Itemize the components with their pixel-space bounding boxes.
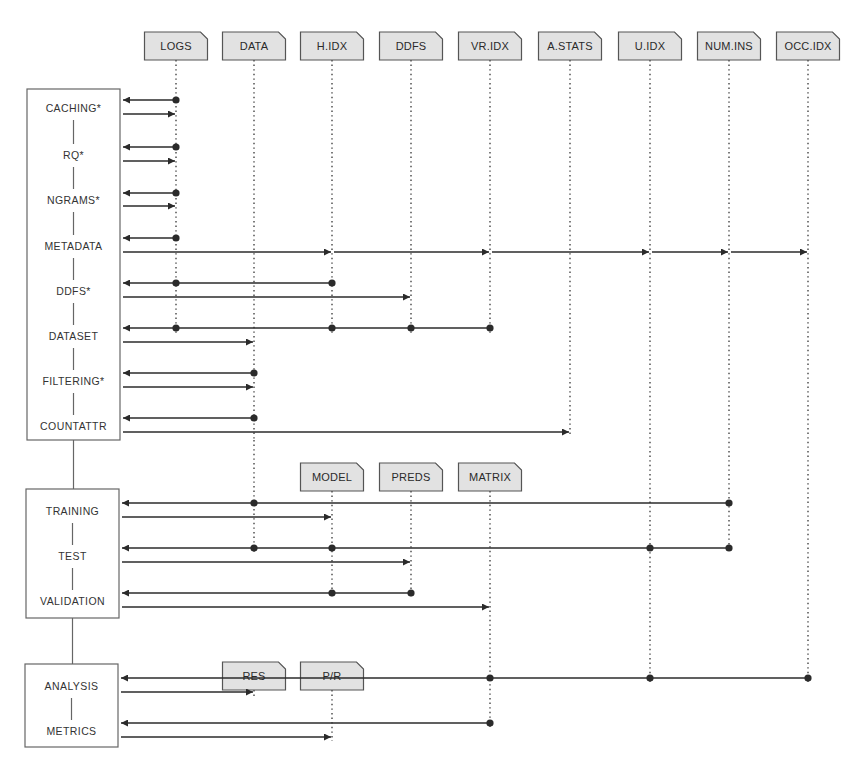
source-dot bbox=[172, 143, 179, 150]
header-u-idx: U.IDX bbox=[619, 32, 682, 60]
source-dot bbox=[328, 589, 335, 596]
header-label: VR.IDX bbox=[471, 40, 509, 52]
source-dot bbox=[486, 719, 493, 726]
source-dot bbox=[172, 189, 179, 196]
step-label: VALIDATION bbox=[40, 595, 105, 607]
step-label: CACHING* bbox=[46, 102, 102, 114]
step-label: TRAINING bbox=[46, 505, 99, 517]
source-dot bbox=[725, 499, 732, 506]
source-dot bbox=[486, 674, 493, 681]
step-label: FILTERING* bbox=[42, 375, 104, 387]
messages: CACHING*RQ*NGRAMS*METADATADDFS*DATASETFI… bbox=[40, 96, 812, 737]
source-dot bbox=[328, 279, 335, 286]
header-num-ins: NUM.INS bbox=[698, 32, 761, 60]
header-h-idx: H.IDX bbox=[301, 32, 364, 60]
header-label: LOGS bbox=[160, 40, 191, 52]
step-label: METRICS bbox=[46, 725, 96, 737]
header-label: DDFS bbox=[396, 40, 427, 52]
source-dot bbox=[250, 544, 257, 551]
artifact-headers: LOGSDATAH.IDXDDFSVR.IDXA.STATSU.IDXNUM.I… bbox=[145, 32, 840, 690]
step-label: TEST bbox=[58, 550, 87, 562]
header-label: MATRIX bbox=[469, 471, 511, 483]
header-label: PREDS bbox=[392, 471, 431, 483]
stage-boxes bbox=[25, 89, 120, 747]
source-dot bbox=[172, 324, 179, 331]
header-label: RES bbox=[242, 670, 265, 682]
step-label: DATASET bbox=[49, 330, 99, 342]
step-metadata: METADATA bbox=[44, 234, 807, 280]
step-analysis: ANALYSIS bbox=[45, 674, 812, 720]
source-dot bbox=[250, 369, 257, 376]
step-training: TRAINING bbox=[46, 499, 733, 545]
header-matrix: MATRIX bbox=[459, 463, 522, 491]
header-res: RES bbox=[223, 662, 286, 690]
source-dot bbox=[804, 674, 811, 681]
header-ddfs: DDFS bbox=[380, 32, 443, 60]
source-dot bbox=[172, 234, 179, 241]
header-model: MODEL bbox=[301, 463, 364, 491]
source-dot bbox=[646, 674, 653, 681]
header-label: H.IDX bbox=[317, 40, 348, 52]
step-label: COUNTATTR bbox=[40, 420, 107, 432]
step-label: METADATA bbox=[44, 240, 102, 252]
header-label: MODEL bbox=[312, 471, 352, 483]
header-data: DATA bbox=[223, 32, 286, 60]
header-label: DATA bbox=[240, 40, 269, 52]
source-dot bbox=[250, 414, 257, 421]
step-label: DDFS* bbox=[56, 285, 91, 297]
header-vr-idx: VR.IDX bbox=[459, 32, 522, 60]
header-label: U.IDX bbox=[635, 40, 666, 52]
step-label: NGRAMS* bbox=[47, 194, 100, 206]
source-dot bbox=[646, 544, 653, 551]
header-label: A.STATS bbox=[547, 40, 593, 52]
header-label: OCC.IDX bbox=[784, 40, 832, 52]
source-dot bbox=[328, 324, 335, 331]
header-a-stats: A.STATS bbox=[539, 32, 602, 60]
header-logs: LOGS bbox=[145, 32, 208, 60]
source-dot bbox=[172, 279, 179, 286]
pipeline-sequence-diagram: LOGSDATAH.IDXDDFSVR.IDXA.STATSU.IDXNUM.I… bbox=[0, 0, 860, 764]
source-dot bbox=[172, 96, 179, 103]
source-dot bbox=[250, 499, 257, 506]
source-dot bbox=[407, 589, 414, 596]
lifelines bbox=[176, 60, 808, 741]
step-label: RQ* bbox=[63, 149, 84, 161]
step-label: ANALYSIS bbox=[45, 680, 99, 692]
source-dot bbox=[407, 324, 414, 331]
header-occ-idx: OCC.IDX bbox=[777, 32, 840, 60]
source-dot bbox=[486, 324, 493, 331]
source-dot bbox=[328, 544, 335, 551]
header-p-r: P/R bbox=[301, 662, 364, 690]
header-preds: PREDS bbox=[380, 463, 443, 491]
step-test: TEST bbox=[58, 544, 732, 590]
source-dot bbox=[725, 544, 732, 551]
header-label: NUM.INS bbox=[705, 40, 753, 52]
header-label: P/R bbox=[323, 670, 342, 682]
